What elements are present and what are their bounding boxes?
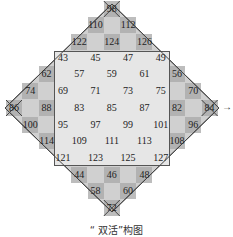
- cell-number: 57: [74, 69, 84, 79]
- cell-number: 96: [188, 120, 198, 130]
- cell-number: 124: [104, 37, 119, 47]
- cell-number: 123: [88, 153, 103, 163]
- cell-number: 111: [105, 136, 119, 146]
- cell-number: 121: [55, 153, 70, 163]
- cell-number: 97: [91, 120, 101, 130]
- cell-number: 113: [137, 136, 152, 146]
- cell-number: 87: [139, 103, 149, 113]
- cell-number: 61: [139, 69, 149, 79]
- cell-number: 83: [74, 103, 84, 113]
- cell-number: 95: [58, 120, 68, 130]
- cell-number: 122: [72, 37, 87, 47]
- cell-number: 112: [121, 20, 136, 30]
- cell-number: 59: [107, 69, 117, 79]
- cell-number: 99: [123, 120, 133, 130]
- cell-number: 47: [123, 53, 133, 63]
- cell-number: 62: [42, 69, 52, 79]
- figure-caption: “ 双活”构图: [0, 222, 233, 237]
- cell-number: 70: [188, 86, 198, 96]
- cell-number: 58: [91, 186, 101, 196]
- cell-number: 108: [170, 136, 185, 146]
- cell-number: 48: [139, 170, 149, 180]
- cell-number: 126: [137, 37, 152, 47]
- cell-number: 73: [123, 86, 133, 96]
- cell-number: 85: [107, 103, 117, 113]
- cell-number: 60: [123, 186, 133, 196]
- cell-number: 86: [9, 103, 19, 113]
- cell-number: 75: [156, 86, 166, 96]
- cell-number: 98: [107, 4, 117, 14]
- cell-number: 45: [91, 53, 101, 63]
- cell-number: 109: [72, 136, 87, 146]
- cell-number: 110: [88, 20, 103, 30]
- magic-square-diagram: 9811011212212412643454749625759615674697…: [0, 0, 233, 237]
- arrow-right-icon: →: [222, 101, 232, 112]
- cell-number: 56: [172, 69, 182, 79]
- cell-number: 101: [153, 120, 168, 130]
- cell-number: 127: [153, 153, 168, 163]
- cell-number: 84: [205, 103, 215, 113]
- cell-number: 44: [74, 170, 84, 180]
- cell-number: 46: [107, 170, 117, 180]
- cell-number: 69: [58, 86, 68, 96]
- cell-number: 88: [42, 103, 52, 113]
- cell-number: 71: [91, 86, 101, 96]
- cell-number: 72: [107, 203, 117, 213]
- cell-number: 100: [23, 120, 38, 130]
- cell-number: 43: [58, 53, 68, 63]
- cell-number: 114: [39, 136, 54, 146]
- cell-number: 125: [121, 153, 136, 163]
- cell-number: 74: [25, 86, 35, 96]
- cell-number: 82: [172, 103, 182, 113]
- cell-number: 49: [156, 53, 166, 63]
